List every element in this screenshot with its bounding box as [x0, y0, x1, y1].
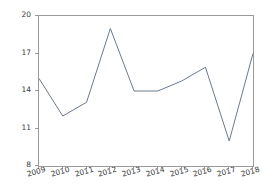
x-tick-label: 2015 [169, 166, 189, 178]
y-tick-label: 20 [0, 11, 31, 19]
x-tick-label: 2011 [74, 166, 94, 178]
y-tick-label: 17 [0, 49, 31, 57]
x-tick-label: 2012 [97, 166, 117, 178]
y-tick-label: 11 [0, 124, 31, 132]
x-tick-label: 2013 [121, 166, 141, 178]
line-series-svg [39, 16, 253, 166]
y-tick-label: 8 [0, 161, 31, 169]
x-tick-label: 2017 [216, 166, 236, 178]
chart-figure: 811141720 200920102011201220132014201520… [0, 0, 263, 188]
y-tick-label: 14 [0, 86, 31, 94]
plot-area [38, 15, 254, 167]
x-tick-label: 2016 [192, 166, 212, 178]
line-series-path [39, 29, 253, 142]
x-tick-label: 2018 [240, 166, 260, 178]
x-tick-label: 2014 [145, 166, 165, 178]
x-tick-label: 2010 [50, 166, 70, 178]
